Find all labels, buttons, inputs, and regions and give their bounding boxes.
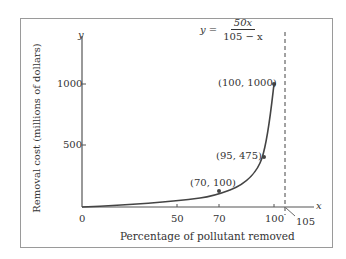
- x-axis-symbol: x: [316, 200, 322, 211]
- equation-label: y = 50x 105 − x: [200, 17, 263, 42]
- point-70-100: [217, 189, 221, 193]
- y-tick-label-1000: 1000: [57, 78, 82, 89]
- x-axis-title: Percentage of pollutant removed: [120, 230, 295, 242]
- y-axis-title: Removal cost (millions of dollars): [31, 43, 42, 212]
- annotation-70-100: (70, 100): [190, 177, 236, 188]
- equation-denominator: 105 − x: [223, 30, 262, 42]
- x-tick-label-50: 50: [171, 213, 184, 224]
- x-tick-label-105: 105: [296, 216, 315, 227]
- x-tick-label-70: 70: [213, 213, 226, 224]
- equation-fraction: 50x 105 − x: [223, 17, 262, 42]
- y-axis-symbol: y: [78, 29, 84, 40]
- leader-105: [286, 208, 295, 216]
- equation-numerator: 50x: [231, 17, 255, 30]
- annotation-95-475: (95, 475): [216, 150, 262, 161]
- cost-curve: [82, 84, 274, 207]
- y-tick-label-500: 500: [63, 139, 82, 150]
- x-tick-label-100: 100: [265, 213, 284, 224]
- equation-lhs: y =: [200, 24, 217, 35]
- x-tick-label-0: 0: [79, 213, 85, 224]
- point-95-475: [262, 155, 266, 159]
- annotation-100-1000: (100, 1000): [218, 77, 277, 88]
